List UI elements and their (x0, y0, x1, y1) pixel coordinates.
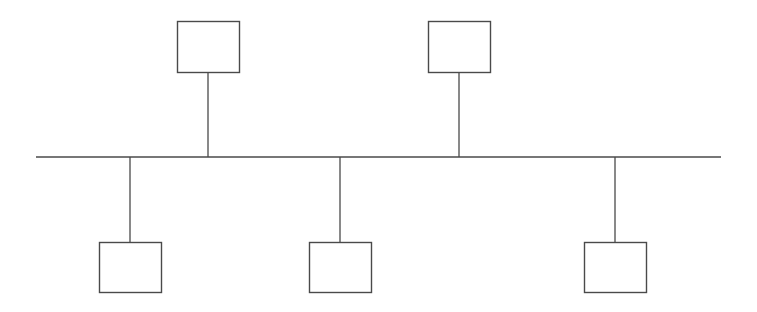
node-box-top-2 (429, 22, 491, 73)
node-box-top-1 (178, 22, 240, 73)
bus-topology-diagram (0, 0, 757, 312)
node-box-bottom-1 (100, 243, 162, 293)
diagram-canvas (0, 0, 757, 312)
node-box-bottom-2 (310, 243, 372, 293)
node-box-bottom-3 (585, 243, 647, 293)
